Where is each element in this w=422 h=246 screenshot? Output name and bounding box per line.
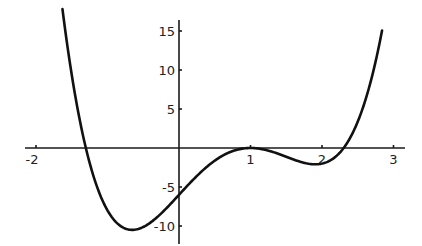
x-tick-label: 3: [389, 152, 397, 167]
y-tick-label: 10: [158, 63, 175, 78]
y-tick-label: 5: [167, 102, 175, 117]
y-tick-label: -10: [154, 219, 175, 234]
function-curve: [62, 9, 382, 230]
ticks: [36, 31, 394, 226]
function-plot: -212315105-5-10: [0, 0, 422, 246]
y-tick-label: -5: [162, 180, 175, 195]
y-tick-label: 15: [158, 24, 175, 39]
x-tick-label: -2: [26, 152, 39, 167]
x-tick-label: 1: [246, 152, 254, 167]
